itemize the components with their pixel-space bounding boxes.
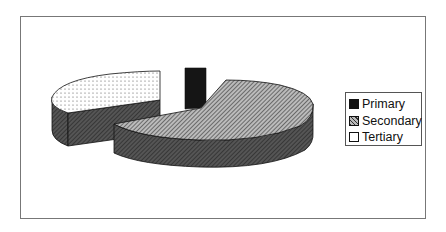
slice-primary [185, 68, 206, 109]
legend-item-primary: Primary [349, 96, 421, 113]
legend-label: Primary [362, 97, 405, 111]
legend-swatch-secondary [349, 116, 359, 126]
legend-swatch-primary [349, 99, 359, 109]
legend-item-secondary: Secondary [349, 113, 421, 130]
legend-label: Tertiary [362, 130, 403, 144]
legend-label: Secondary [362, 114, 422, 128]
legend-item-tertiary: Tertiary [349, 129, 421, 146]
legend-swatch-tertiary [349, 132, 359, 142]
chart-legend: Primary Secondary Tertiary [345, 92, 422, 146]
